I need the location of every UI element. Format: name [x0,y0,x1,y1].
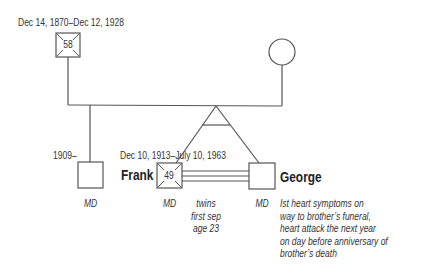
father-dates: Dec 14, 1870–Dec 12, 1928 [18,17,124,29]
older-son-role: MD [80,198,101,210]
george-note-line: heart attack the next year [280,223,388,236]
frank-name: Frank [121,167,153,183]
george-name: George [280,169,322,185]
twins-note-line: first sep [189,211,223,224]
father-age: 58 [58,39,78,51]
george-note-line: Ist heart symptoms on [280,198,388,211]
twins-note-line: age 23 [189,223,223,236]
older-son-dates: 1909– [53,150,77,162]
twins-note: twins first sep age 23 [189,198,223,236]
george-role: MD [251,198,273,210]
frank-dates: Dec 10, 1913–July 10, 1963 [120,150,226,162]
older-son-square[interactable] [78,162,103,188]
mother-circle[interactable] [269,39,295,65]
george-note-line: on day before anniversary of [280,236,388,249]
george-note: Ist heart symptoms on way to brother’s f… [280,198,388,261]
marriage-line [68,105,282,106]
frank-age: 49 [159,170,179,182]
george-square[interactable] [249,163,275,189]
twins-note-line: twins [189,198,223,211]
george-note-line: way to brother’s funeral, [280,211,388,224]
george-note-line: brother’s death [280,248,388,261]
frank-role: MD [159,198,180,210]
